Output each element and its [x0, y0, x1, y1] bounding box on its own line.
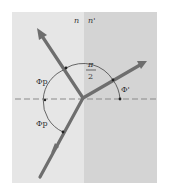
- medium-n-panel: [12, 12, 84, 183]
- medium-n-label: n: [74, 16, 79, 25]
- phi-prime-label: Φ': [121, 85, 130, 94]
- phi-p-upper-label: Φp: [36, 77, 48, 86]
- pi-denominator: 2: [88, 72, 93, 81]
- arc-dot: [112, 79, 115, 82]
- brewster-angle-diagram: n n' Φp Φp π 2 Φ': [0, 0, 169, 194]
- arc-dot: [44, 99, 46, 101]
- pi-numerator: π: [87, 60, 94, 69]
- arc-dot: [62, 131, 65, 134]
- medium-n-prime-label: n': [88, 16, 95, 25]
- arc-dot: [65, 67, 68, 70]
- medium-n-prime-panel: [84, 12, 157, 183]
- arc-dot: [119, 98, 122, 101]
- phi-p-lower-label: Φp: [36, 119, 48, 128]
